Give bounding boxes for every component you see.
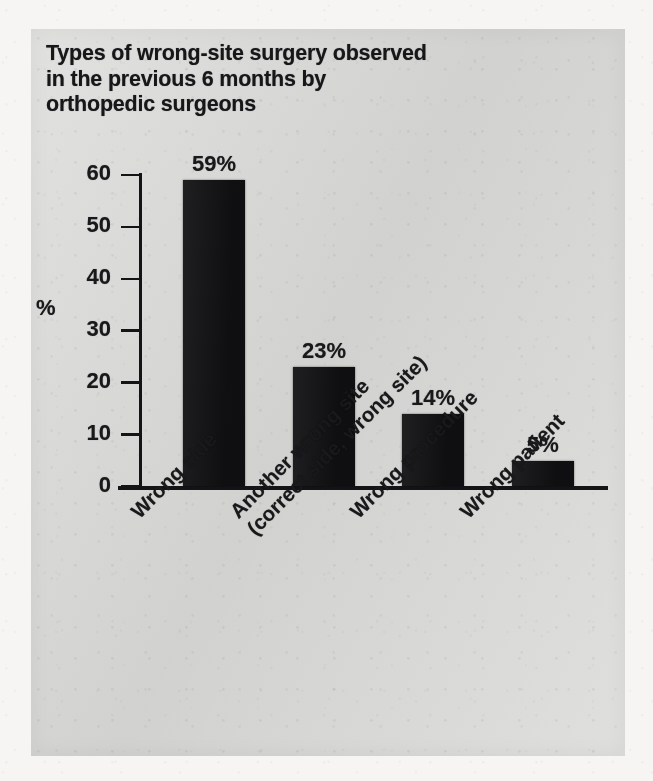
- y-axis-tick: [121, 329, 140, 332]
- y-axis-tick-label: 0: [55, 472, 111, 498]
- y-axis-tick-label: 30: [55, 316, 111, 342]
- figure-page: in the previous months ofthe reported ca…: [0, 0, 653, 781]
- y-axis-tick-label: 20: [55, 368, 111, 394]
- y-axis-tick-label: 10: [55, 420, 111, 446]
- y-axis-tick: [121, 433, 140, 436]
- bar-value-label: 59%: [159, 151, 269, 177]
- y-axis-tick: [121, 226, 140, 229]
- y-axis-tick-label: 60: [55, 160, 111, 186]
- y-axis-tick-label: 50: [55, 212, 111, 238]
- y-axis-tick: [121, 174, 140, 177]
- y-axis-tick: [121, 278, 140, 281]
- y-axis-tick-label: 40: [55, 264, 111, 290]
- bar-value-label: 23%: [269, 338, 379, 364]
- y-axis-tick: [121, 381, 140, 384]
- y-axis-tick: [121, 485, 140, 488]
